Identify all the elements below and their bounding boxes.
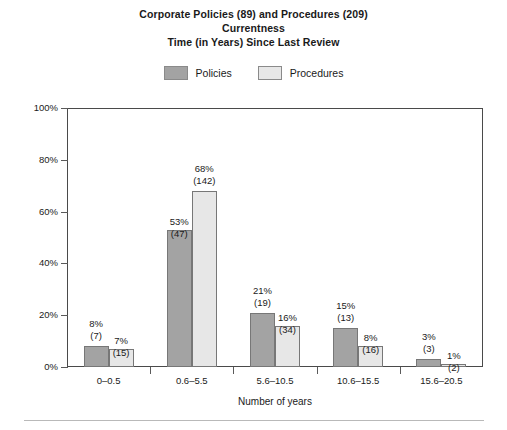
legend-label-procedures: Procedures bbox=[290, 67, 344, 79]
bar-value-label: 7%(15) bbox=[93, 335, 149, 359]
bar-value-label: 1%(2) bbox=[426, 350, 482, 374]
y-tick-mark bbox=[61, 367, 68, 368]
y-tick-label: 60% bbox=[18, 206, 58, 217]
x-tick-label: 5.6–10.5 bbox=[230, 375, 320, 386]
bar-percent-label: 8% bbox=[343, 332, 399, 344]
y-tick-mark bbox=[61, 315, 68, 316]
bar-count-label: (142) bbox=[176, 175, 232, 187]
footer-divider bbox=[24, 420, 484, 421]
legend-label-policies: Policies bbox=[196, 67, 232, 79]
bar-count-label: (13) bbox=[318, 312, 374, 324]
bar-count-label: (34) bbox=[260, 324, 316, 336]
chart-title-line-1: Corporate Policies (89) and Procedures (… bbox=[0, 7, 507, 21]
bar-value-label: 15%(13) bbox=[318, 300, 374, 324]
y-tick-label: 40% bbox=[18, 257, 58, 268]
x-tick-label: 15.6–20.5 bbox=[396, 375, 486, 386]
bar-value-label: 16%(34) bbox=[260, 312, 316, 336]
bar-value-label: 68%(142) bbox=[176, 163, 232, 187]
bar-count-label: (2) bbox=[426, 362, 482, 374]
y-tick-mark bbox=[61, 212, 68, 213]
x-tick-label: 10.6–15.5 bbox=[313, 375, 403, 386]
bar-percent-label: 15% bbox=[318, 300, 374, 312]
x-axis-title: Number of years bbox=[67, 396, 483, 407]
legend-item-policies: Policies bbox=[164, 66, 232, 80]
bar-value-label: 21%(19) bbox=[235, 285, 291, 309]
y-tick-label: 20% bbox=[18, 309, 58, 320]
bar-procedures bbox=[192, 191, 217, 367]
x-tick-mark bbox=[400, 367, 401, 374]
x-tick-mark bbox=[233, 367, 234, 374]
bar-percent-label: 68% bbox=[176, 163, 232, 175]
bar-percent-label: 7% bbox=[93, 335, 149, 347]
y-tick-label: 80% bbox=[18, 154, 58, 165]
bar-policies bbox=[167, 230, 192, 367]
bar-count-label: (16) bbox=[343, 344, 399, 356]
y-tick-mark bbox=[61, 263, 68, 264]
x-tick-label: 0.6–5.5 bbox=[147, 375, 237, 386]
bar-value-label: 8%(16) bbox=[343, 332, 399, 356]
legend-item-procedures: Procedures bbox=[258, 66, 344, 80]
legend-swatch-procedures bbox=[258, 66, 282, 80]
x-tick-mark bbox=[150, 367, 151, 374]
legend-swatch-policies bbox=[164, 66, 188, 80]
chart-title-line-3: Time (in Years) Since Last Review bbox=[0, 35, 507, 49]
y-tick-mark bbox=[61, 160, 68, 161]
bar-percent-label: 3% bbox=[401, 331, 457, 343]
bar-percent-label: 16% bbox=[260, 312, 316, 324]
x-tick-mark bbox=[317, 367, 318, 374]
chart-title-line-2: Currentness bbox=[0, 21, 507, 35]
bar-percent-label: 21% bbox=[235, 285, 291, 297]
x-tick-label: 0–0.5 bbox=[64, 375, 154, 386]
bar-percent-label: 8% bbox=[68, 318, 124, 330]
chart-legend: Policies Procedures bbox=[0, 66, 507, 80]
bar-percent-label: 1% bbox=[426, 350, 482, 362]
chart-title: Corporate Policies (89) and Procedures (… bbox=[0, 7, 507, 49]
bar-count-label: (15) bbox=[93, 347, 149, 359]
y-tick-mark bbox=[61, 108, 68, 109]
bar-count-label: (19) bbox=[235, 297, 291, 309]
y-tick-label: 0% bbox=[18, 361, 58, 372]
y-tick-label: 100% bbox=[18, 102, 58, 113]
